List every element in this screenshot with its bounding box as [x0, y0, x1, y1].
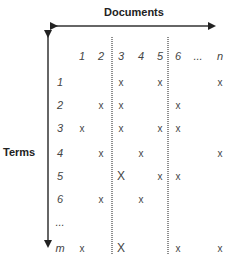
matrix-mark: X: [117, 169, 125, 183]
matrix-mark: x: [119, 77, 124, 88]
row-label: 6: [57, 193, 63, 205]
matrix-mark: x: [139, 148, 144, 159]
column-header: ...: [193, 50, 202, 62]
row-label: 3: [57, 122, 63, 134]
column-header: 1: [79, 50, 85, 62]
row-label: 1: [57, 76, 63, 88]
matrix-mark: x: [119, 123, 124, 134]
matrix-mark: x: [99, 100, 104, 111]
matrix-mark: x: [80, 123, 85, 134]
matrix-mark: x: [218, 77, 223, 88]
matrix-mark: x: [218, 243, 223, 254]
matrix-mark: x: [218, 148, 223, 159]
row-label: 4: [57, 147, 63, 159]
matrix-mark: X: [117, 241, 125, 255]
matrix-mark: x: [80, 243, 85, 254]
row-label: ...: [55, 216, 64, 228]
column-header: 2: [98, 50, 104, 62]
matrix-mark: x: [158, 171, 163, 182]
row-label: 2: [57, 99, 63, 111]
matrix-mark: x: [158, 123, 163, 134]
terms-label: Terms: [3, 146, 35, 158]
matrix-mark: x: [99, 194, 104, 205]
column-header: 5: [157, 50, 163, 62]
diagram-lines: [0, 0, 238, 273]
row-label: 5: [57, 170, 63, 182]
matrix-mark: x: [139, 194, 144, 205]
matrix-mark: x: [158, 77, 163, 88]
matrix-mark: x: [99, 148, 104, 159]
documents-label: Documents: [104, 6, 164, 18]
column-header: 3: [118, 50, 124, 62]
column-header: n: [217, 50, 223, 62]
column-header: 4: [138, 50, 144, 62]
matrix-mark: x: [176, 123, 181, 134]
matrix-mark: x: [176, 243, 181, 254]
matrix-mark: x: [119, 100, 124, 111]
matrix-mark: x: [176, 100, 181, 111]
row-label: m: [55, 242, 64, 254]
column-header: 6: [175, 50, 181, 62]
matrix-mark: x: [176, 171, 181, 182]
